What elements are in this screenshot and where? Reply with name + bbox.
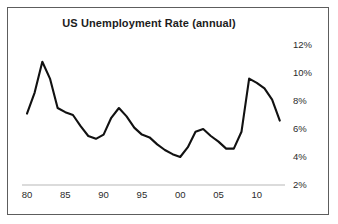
chart-frame (7, 7, 329, 215)
y-axis-tick-label: 10% (293, 68, 335, 78)
y-axis-tick-label: 2% (293, 180, 335, 190)
x-axis-tick-label: 80 (15, 190, 39, 200)
page-title: US Unemployment Rate (annual) (7, 17, 291, 29)
x-axis-tick-label: 90 (92, 190, 116, 200)
y-axis-tick-label: 6% (293, 124, 335, 134)
chart-container: US Unemployment Rate (annual) 12%10%8%6%… (0, 0, 338, 224)
x-axis-tick-label: 05 (207, 190, 231, 200)
x-axis-tick-label: 85 (53, 190, 77, 200)
x-axis-tick-label: 00 (168, 190, 192, 200)
x-axis-tick-label: 10 (245, 190, 269, 200)
y-axis-tick-label: 4% (293, 152, 335, 162)
y-axis-tick-label: 12% (293, 40, 335, 50)
x-axis-tick-label: 95 (130, 190, 154, 200)
y-axis-tick-label: 8% (293, 96, 335, 106)
